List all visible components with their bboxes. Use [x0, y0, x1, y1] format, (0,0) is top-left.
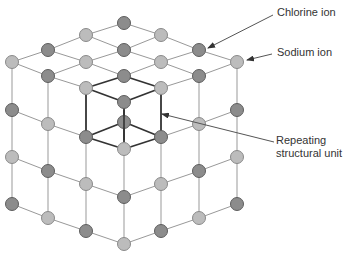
repeating-unit-label-line2: structural unit	[276, 147, 342, 160]
chlorine-ion	[193, 44, 206, 57]
chlorine-ion	[231, 198, 244, 211]
sodium-ion	[193, 212, 206, 225]
chlorine-ion	[118, 17, 131, 30]
sodium-ion	[118, 143, 131, 156]
sodium-ion	[155, 29, 168, 42]
sodium-ion	[80, 29, 93, 42]
chlorine-ion	[42, 165, 55, 178]
chlorine-ion	[42, 70, 55, 83]
sodium-arrow	[247, 54, 272, 60]
sodium-ion	[231, 56, 244, 69]
chlorine-arrow	[208, 15, 273, 48]
sodium-ion	[118, 238, 131, 251]
chlorine-ion	[118, 70, 131, 83]
chlorine-ion	[118, 44, 131, 57]
chlorine-ion	[155, 225, 168, 238]
repeating-unit-label-line1: Repeating	[276, 134, 342, 147]
chlorine-ion	[80, 131, 93, 144]
repeating-unit-label: Repeating structural unit	[276, 134, 342, 160]
nacl-lattice-diagram	[0, 0, 344, 259]
sodium-ion	[80, 178, 93, 191]
label-arrows	[162, 15, 274, 142]
chlorine-ion	[80, 225, 93, 238]
chlorine-ion	[231, 104, 244, 117]
sodium-ion	[231, 151, 244, 164]
repeating-unit-arrow	[162, 114, 274, 142]
sodium-ion	[155, 56, 168, 69]
sodium-ion	[42, 212, 55, 225]
sodium-ion	[155, 82, 168, 95]
chlorine-ion	[6, 198, 19, 211]
chlorine-ion	[155, 131, 168, 144]
chlorine-ion	[6, 104, 19, 117]
sodium-ion	[80, 56, 93, 69]
sodium-ion-label: Sodium ion	[277, 46, 332, 59]
chlorine-ion	[42, 44, 55, 57]
chlorine-ion-label: Chlorine ion	[277, 6, 336, 19]
sodium-ion	[80, 82, 93, 95]
chlorine-ion	[118, 191, 131, 204]
chlorine-ion	[193, 165, 206, 178]
sodium-ion	[42, 118, 55, 131]
sodium-ion	[6, 151, 19, 164]
sodium-ion	[155, 178, 168, 191]
sodium-ion	[6, 56, 19, 69]
chlorine-ion	[193, 70, 206, 83]
chlorine-ion	[118, 96, 131, 109]
